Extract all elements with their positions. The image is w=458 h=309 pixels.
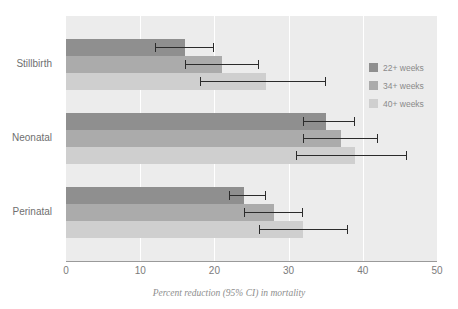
error-bar-line bbox=[200, 81, 326, 82]
error-bar-cap-high bbox=[265, 191, 266, 200]
error-bar-cap-low bbox=[185, 60, 186, 69]
legend-label: 40+ weeks bbox=[383, 99, 424, 109]
error-bar-neonatal-34-weeks bbox=[303, 134, 377, 143]
bar-neonatal-34-weeks bbox=[66, 130, 341, 147]
chart-caption: Percent reduction (95% CI) in mortality bbox=[0, 288, 458, 298]
bar-perinatal-34-weeks bbox=[66, 204, 274, 221]
x-tick-label-50: 50 bbox=[431, 265, 442, 276]
error-bar-cap-high bbox=[325, 77, 326, 86]
y-label-stillbirth: Stillbirth bbox=[16, 58, 52, 69]
x-tick-label-40: 40 bbox=[357, 265, 368, 276]
legend-label: 22+ weeks bbox=[383, 63, 424, 73]
error-bar-cap-low bbox=[229, 191, 230, 200]
legend-item-22-weeks: 22+ weeks bbox=[369, 60, 424, 75]
error-bar-line bbox=[244, 212, 303, 213]
error-bar-cap-high bbox=[354, 117, 355, 126]
error-bar-cap-high bbox=[258, 60, 259, 69]
error-bar-cap-low bbox=[155, 43, 156, 52]
error-bar-cap-low bbox=[303, 117, 304, 126]
error-bar-cap-low bbox=[244, 208, 245, 217]
bar-group-neonatal bbox=[66, 113, 437, 164]
legend-swatch-icon bbox=[369, 81, 378, 90]
error-bar-stillbirth-40-weeks bbox=[200, 77, 326, 86]
x-axis-line bbox=[66, 261, 437, 262]
legend-label: 34+ weeks bbox=[383, 81, 424, 91]
error-bar-cap-high bbox=[302, 208, 303, 217]
bar-group-perinatal bbox=[66, 187, 437, 238]
error-bar-cap-low bbox=[303, 134, 304, 143]
legend-swatch-icon bbox=[369, 99, 378, 108]
error-bar-cap-high bbox=[347, 225, 348, 234]
error-bar-cap-high bbox=[406, 151, 407, 160]
legend-item-40-weeks: 40+ weeks bbox=[369, 96, 424, 111]
x-tick-label-0: 0 bbox=[63, 265, 69, 276]
error-bar-perinatal-34-weeks bbox=[244, 208, 303, 217]
error-bar-line bbox=[185, 64, 259, 65]
error-bar-cap-high bbox=[377, 134, 378, 143]
chart-figure: 01020304050 StillbirthNeonatalPerinatal … bbox=[0, 0, 458, 309]
error-bar-cap-high bbox=[213, 43, 214, 52]
error-bar-neonatal-22-weeks bbox=[303, 117, 355, 126]
error-bar-perinatal-22-weeks bbox=[229, 191, 266, 200]
plot-area bbox=[66, 16, 437, 261]
y-axis-category-labels: StillbirthNeonatalPerinatal bbox=[0, 16, 60, 261]
bar-neonatal-22-weeks bbox=[66, 113, 326, 130]
bar-perinatal-22-weeks bbox=[66, 187, 244, 204]
error-bar-perinatal-40-weeks bbox=[259, 225, 348, 234]
error-bar-cap-low bbox=[296, 151, 297, 160]
error-bar-neonatal-40-weeks bbox=[296, 151, 407, 160]
legend-item-34-weeks: 34+ weeks bbox=[369, 78, 424, 93]
x-tick-label-30: 30 bbox=[283, 265, 294, 276]
y-label-perinatal: Perinatal bbox=[13, 206, 52, 217]
error-bar-line bbox=[155, 47, 214, 48]
y-label-neonatal: Neonatal bbox=[12, 132, 52, 143]
error-bar-line bbox=[296, 155, 407, 156]
legend: 22+ weeks34+ weeks40+ weeks bbox=[369, 60, 424, 114]
gridline-50 bbox=[437, 16, 438, 261]
error-bar-line bbox=[303, 121, 355, 122]
error-bar-line bbox=[303, 138, 377, 139]
clipped-title bbox=[60, 0, 300, 9]
legend-swatch-icon bbox=[369, 63, 378, 72]
error-bar-line bbox=[229, 195, 266, 196]
x-tick-label-20: 20 bbox=[209, 265, 220, 276]
error-bar-cap-low bbox=[259, 225, 260, 234]
error-bar-stillbirth-34-weeks bbox=[185, 60, 259, 69]
error-bar-cap-low bbox=[200, 77, 201, 86]
error-bar-line bbox=[259, 229, 348, 230]
error-bar-stillbirth-22-weeks bbox=[155, 43, 214, 52]
x-tick-label-10: 10 bbox=[135, 265, 146, 276]
